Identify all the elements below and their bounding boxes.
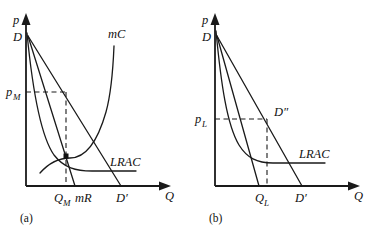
panel-a-y-axis-arrowhead [22,13,31,25]
panel-a-price-subscript: M [12,92,21,102]
panel-b-lrac-label: LRAC [298,147,330,161]
panel-b: p Q D D″ LRAC p L Q L D′ (b) [189,0,378,234]
panel-a-quantity-subscript: M [62,198,71,208]
panel-a-marginal-revenue-label: mR [75,191,92,205]
panel-a-x-axis-label: Q [165,189,174,203]
panel-a-lrac-label: LRAC [109,155,141,169]
panel-a-lrac-curve [27,33,136,171]
panel-b-price-subscript: L [201,119,207,129]
panel-a-price-symbol: p [5,85,12,99]
panel-b-marginal-revenue-curve [217,36,259,186]
panel-a-quantity-symbol: Q [54,191,63,205]
panel-b-quantity-tick-label: Q L [255,191,269,208]
panel-b-quantity-symbol: Q [255,191,264,205]
panel-a-demand-origin-label: D [12,30,22,44]
panel-b-demand-origin-label: D [201,30,211,44]
panel-b-price-tick-label: p L [194,112,207,129]
panel-b-demand-point-label: D″ [273,105,289,119]
panel-b-quantity-subscript: L [263,198,269,208]
economics-figure: p Q D mC LRAC p M Q M mR D′ (a) [0,0,378,234]
panel-b-y-axis-label: p [201,13,208,27]
panel-a-demand-end-label: D′ [115,191,128,205]
panel-b-x-axis-label: Q [354,189,363,203]
panel-b-lrac-curve [216,31,325,163]
panel-a-demand-curve [28,36,121,186]
panel-a-marginal-cost-label: mC [108,27,126,41]
panel-a-caption: (a) [20,212,33,225]
panel-a: p Q D mC LRAC p M Q M mR D′ (a) [0,0,189,234]
panel-a-y-axis-label: p [12,13,19,27]
panel-b-price-symbol: p [194,112,201,126]
panel-a-price-tick-label: p M [5,85,21,102]
panel-b-y-axis-arrowhead [211,13,220,25]
panel-b-caption: (b) [209,212,223,225]
panel-b-demand-end-label: D′ [294,191,307,205]
panel-a-quantity-tick-label: Q M [54,191,71,208]
panel-a-equilibrium-dot [64,154,69,159]
